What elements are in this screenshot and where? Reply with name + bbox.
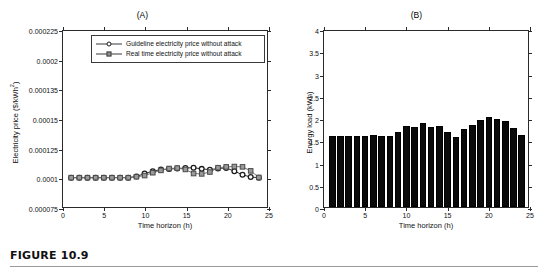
panel-a-y-axis-label-text: Electricity price ($/kWh	[11, 87, 20, 163]
data-point-marker	[240, 172, 245, 177]
x-tick-top	[104, 27, 105, 31]
data-point-marker	[159, 168, 164, 173]
x-tick-label: 5	[363, 212, 367, 219]
data-point-marker	[118, 175, 123, 180]
x-tick-top	[187, 27, 188, 31]
y-tick	[320, 142, 324, 143]
data-point-marker	[77, 175, 82, 180]
x-tick-top	[228, 27, 229, 31]
y-tick	[320, 165, 324, 166]
bar	[345, 136, 352, 207]
y-tick-right	[267, 61, 271, 62]
x-tick	[228, 207, 229, 211]
y-tick-right	[267, 209, 271, 210]
y-tick-label: 0.000075	[29, 206, 58, 213]
data-point-marker	[257, 175, 262, 180]
x-tick-top	[324, 27, 325, 31]
y-tick	[59, 209, 63, 210]
panel-a-legend: Guideline electricity price without atta…	[91, 35, 265, 63]
panel-b-x-axis-label: Time horizon (h)	[324, 221, 528, 230]
bar	[494, 119, 501, 207]
y-tick-label: 0.5	[309, 183, 319, 190]
x-tick-label: 10	[402, 212, 410, 219]
y-tick-label: 0.0002	[37, 57, 58, 64]
x-tick	[489, 207, 490, 211]
panel-b-bars-layer	[324, 31, 528, 207]
data-point-marker	[150, 170, 155, 175]
y-tick-label: 2.5	[309, 94, 319, 101]
bar	[329, 136, 336, 207]
y-tick-label: 4	[315, 28, 319, 35]
y-tick-right	[267, 120, 271, 121]
y-tick-right	[528, 209, 532, 210]
bar	[411, 127, 418, 207]
bar	[403, 126, 410, 207]
data-point-marker	[85, 175, 90, 180]
bar	[518, 135, 525, 207]
panel-b-axes: Time horizon (h) 051015202500.511.522.53…	[323, 30, 529, 208]
data-point-marker	[126, 175, 131, 180]
x-tick-label: 15	[444, 212, 452, 219]
y-tick-label: 2	[315, 117, 319, 124]
bar	[436, 126, 443, 207]
y-tick-label: 0	[315, 206, 319, 213]
y-tick-label: 3.5	[309, 50, 319, 57]
x-tick-label: 10	[141, 212, 149, 219]
x-tick-label: 20	[224, 212, 232, 219]
legend-item-guideline: Guideline electricity price without atta…	[96, 39, 259, 49]
bar	[420, 123, 427, 207]
bar	[510, 128, 517, 207]
data-point-marker	[69, 175, 74, 180]
data-point-marker	[240, 165, 245, 170]
y-tick-label: 3	[315, 72, 319, 79]
x-tick-label: 20	[485, 212, 493, 219]
bar	[469, 125, 476, 207]
legend-marker-circle-icon	[96, 39, 122, 49]
data-point-marker	[191, 165, 196, 170]
bar	[444, 132, 451, 207]
data-point-marker	[142, 173, 147, 178]
y-tick-right	[528, 187, 532, 188]
data-point-marker	[183, 167, 188, 172]
y-tick	[320, 187, 324, 188]
data-point-marker	[134, 174, 139, 179]
bar	[486, 117, 493, 207]
y-tick	[320, 76, 324, 77]
data-point-marker	[208, 170, 213, 175]
x-tick-label: 0	[61, 212, 65, 219]
x-tick	[365, 207, 366, 211]
y-tick-right	[528, 31, 532, 32]
y-tick-right	[267, 31, 271, 32]
y-tick	[320, 31, 324, 32]
data-point-marker	[232, 164, 237, 169]
x-tick-label: 25	[526, 212, 534, 219]
y-tick-label: 0.000225	[29, 28, 58, 35]
y-tick-right	[528, 120, 532, 121]
bar	[428, 127, 435, 207]
bar	[370, 135, 377, 207]
y-tick-label: 1	[315, 161, 319, 168]
bar	[362, 136, 369, 207]
chart-panel-b: (B) Energy load (kWh) Time horizon (h) 0…	[285, 0, 548, 245]
data-point-marker	[93, 175, 98, 180]
y-tick-right	[528, 98, 532, 99]
data-point-marker	[102, 175, 107, 180]
y-tick-label: 1.5	[309, 139, 319, 146]
y-tick-label: 0.00015	[33, 117, 58, 124]
bar	[453, 137, 460, 207]
x-tick	[145, 207, 146, 211]
x-tick	[63, 207, 64, 211]
legend-item-realtime: Real time electricity price without atta…	[96, 49, 259, 59]
bar	[354, 136, 361, 207]
y-tick	[320, 209, 324, 210]
x-tick-top	[448, 27, 449, 31]
bar	[387, 136, 394, 207]
y-tick-right	[528, 165, 532, 166]
bar	[461, 129, 468, 207]
data-point-marker	[199, 172, 204, 177]
y-tick-right	[528, 53, 532, 54]
y-tick-label: 0.000135	[29, 87, 58, 94]
bar	[477, 120, 484, 207]
y-tick-right	[267, 179, 271, 180]
x-tick-top	[145, 27, 146, 31]
